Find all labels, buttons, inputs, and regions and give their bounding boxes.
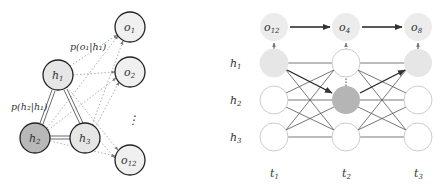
state-t1-h2 — [260, 86, 288, 114]
state-t2-h1 — [332, 49, 360, 77]
row-label-h1: h1 — [230, 57, 242, 71]
state-t2-h2 — [332, 86, 360, 114]
row-label-h2: h2 — [230, 94, 242, 108]
emission-annotation: p(o₁|h₁) — [70, 41, 106, 53]
state-t1-h1 — [260, 49, 288, 77]
state-t3-h3 — [404, 123, 432, 151]
hmm-state-graph: h1 h2 h3 o1 o2 o12 ⋮ p(o₁|h₁) p(h₂|h₁) — [11, 12, 145, 175]
node-o2: o2 — [115, 57, 145, 87]
node-o12: o12 — [115, 145, 145, 175]
state-t1-h3 — [260, 123, 288, 151]
state-t2-h3 — [332, 123, 360, 151]
node-h3: h3 — [70, 123, 100, 153]
trellis-obs-t2: o4 — [332, 13, 360, 41]
time-label-t1: t1 — [270, 167, 279, 181]
state-t3-h1 — [404, 49, 432, 77]
time-label-t3: t3 — [414, 167, 423, 181]
trellis-obs-t3: o8 — [404, 13, 432, 41]
time-label-t2: t2 — [342, 167, 351, 181]
transition-annotation: p(h₂|h₁) — [11, 101, 48, 113]
trellis-obs-t1: o12 — [260, 13, 288, 41]
state-t3-h2 — [404, 86, 432, 114]
node-h1: h1 — [43, 60, 73, 90]
node-h2: h2 — [20, 123, 50, 153]
trellis-states — [260, 49, 432, 151]
ellipsis: ⋮ — [127, 113, 139, 127]
row-label-h3: h3 — [230, 131, 242, 145]
viterbi-trellis: o12 o4 o8 h1 h2 h3 t1 t2 t3 — [230, 13, 432, 181]
node-o1: o1 — [115, 12, 145, 42]
hmm-figure: h1 h2 h3 o1 o2 o12 ⋮ p(o₁|h₁) p(h₂|h₁) — [0, 0, 444, 189]
